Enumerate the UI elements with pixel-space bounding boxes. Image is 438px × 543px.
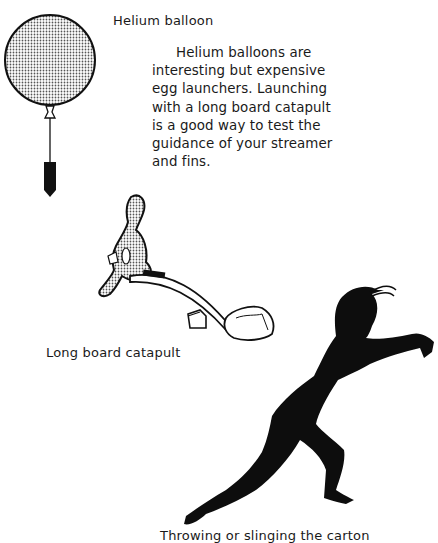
paragraph-line: guidance of your streamer [152, 135, 332, 153]
catapult-icon [99, 195, 273, 340]
catapult-caption: Long board catapult [46, 345, 180, 360]
helium-balloon-caption: Helium balloon [113, 13, 213, 28]
throwing-caption: Throwing or slinging the carton [160, 528, 370, 543]
paragraph-line: with a long board catapult [152, 99, 332, 117]
paragraph-line: and fins. [152, 153, 332, 171]
paragraph-line: Helium balloons are [152, 44, 332, 62]
description-paragraph: Helium balloons are interesting but expe… [152, 44, 332, 171]
helium-balloon-icon [5, 15, 95, 197]
paragraph-line: is a good way to test the [152, 117, 332, 135]
paragraph-line: interesting but expensive [152, 62, 332, 80]
paragraph-line: egg launchers. Launching [152, 80, 332, 98]
